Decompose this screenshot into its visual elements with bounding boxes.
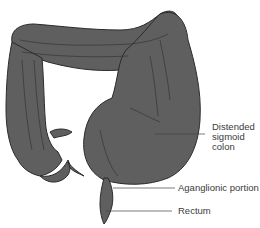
colon-shape [6, 11, 200, 224]
label-rectum: Rectum [178, 206, 211, 216]
colon-illustration [0, 0, 260, 228]
label-distended-sigmoid-colon: Distended sigmoid colon [212, 122, 255, 152]
label-aganglionic-portion: Aganglionic portion [178, 183, 259, 193]
